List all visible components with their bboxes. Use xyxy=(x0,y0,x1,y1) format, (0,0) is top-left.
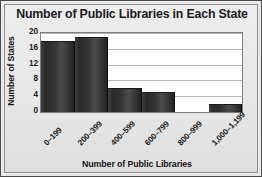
bar-slot xyxy=(175,33,209,112)
y-axis-tick-labels: 048121620 xyxy=(18,27,39,116)
bar-slot xyxy=(75,33,109,112)
bar xyxy=(75,37,109,112)
bar-slot xyxy=(142,33,176,112)
x-axis-tick-labels: 0–199200–399400–599600–799800–9991,000–1… xyxy=(40,113,243,157)
x-axis-title: Number of Public Libraries xyxy=(19,159,255,169)
y-axis-tick-label: 4 xyxy=(33,90,38,100)
y-axis-title-text: Number of States xyxy=(6,36,16,106)
y-axis-tick-label: 12 xyxy=(29,59,38,69)
plot-area xyxy=(40,32,243,113)
y-axis-tick-label: 20 xyxy=(29,27,38,37)
bar-slot xyxy=(209,33,243,112)
bar-slot xyxy=(41,33,75,112)
bar xyxy=(41,41,75,112)
chart-title: Number of Public Libraries in Each State xyxy=(7,6,257,22)
y-axis-title: Number of States xyxy=(3,29,19,113)
y-axis-tick-label: 16 xyxy=(29,43,38,53)
bar-series xyxy=(41,33,242,112)
bar-slot xyxy=(108,33,142,112)
y-axis-tick-label: 0 xyxy=(33,106,38,116)
chart-figure: Number of Public Libraries in Each State… xyxy=(0,0,262,177)
y-axis-tick-label: 8 xyxy=(33,74,38,84)
